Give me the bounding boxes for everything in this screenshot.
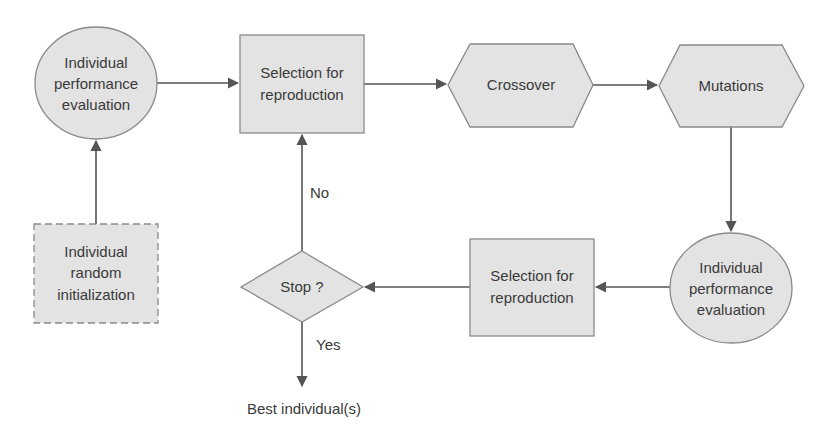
node-selection-for-reproduction-2[interactable]: Selection for reproduction bbox=[470, 239, 594, 336]
node-label-line: Individual bbox=[699, 259, 762, 276]
node-mutations[interactable]: Mutations bbox=[659, 45, 804, 127]
node-label-line: Individual bbox=[64, 243, 127, 260]
node-stop-decision[interactable]: Stop ? bbox=[241, 251, 363, 322]
node-label-line: Selection for bbox=[260, 64, 343, 81]
node-performance-evaluation-1[interactable]: Individual performance evaluation bbox=[35, 27, 157, 139]
node-label-line: initialization bbox=[57, 286, 135, 303]
best-individuals-output: Best individual(s) bbox=[247, 400, 361, 417]
node-label-line: Selection for bbox=[490, 267, 573, 284]
node-label-line: performance bbox=[689, 280, 773, 297]
node-random-initialization[interactable]: Individual random initialization bbox=[34, 224, 158, 323]
edge-label-no: No bbox=[310, 184, 329, 201]
node-label-line: reproduction bbox=[490, 289, 573, 306]
node-label-line: evaluation bbox=[62, 96, 130, 113]
node-selection-for-reproduction-1[interactable]: Selection for reproduction bbox=[240, 35, 364, 133]
node-performance-evaluation-2[interactable]: Individual performance evaluation bbox=[670, 233, 792, 343]
node-label-line: Mutations bbox=[698, 77, 763, 94]
node-label-line: evaluation bbox=[697, 301, 765, 318]
flowchart-canvas: No Yes Individual performance evaluation… bbox=[0, 0, 835, 440]
node-crossover[interactable]: Crossover bbox=[448, 44, 593, 127]
node-label-line: reproduction bbox=[260, 86, 343, 103]
node-label-line: Stop ? bbox=[280, 278, 323, 295]
edge-label-yes: Yes bbox=[316, 336, 340, 353]
node-label-line: Individual bbox=[64, 54, 127, 71]
node-label-line: performance bbox=[54, 75, 138, 92]
node-label-line: Crossover bbox=[487, 76, 555, 93]
node-label-line: random bbox=[71, 264, 122, 281]
